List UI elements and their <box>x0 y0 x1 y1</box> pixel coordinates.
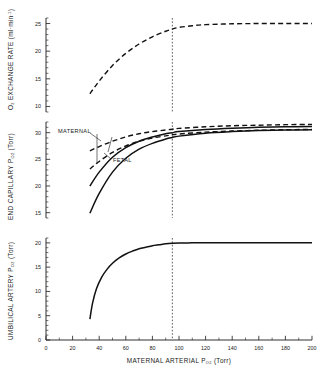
bottom-panel-axes <box>46 238 312 340</box>
y-tick-label: 5 <box>38 313 41 319</box>
x-tick-label: 60 <box>123 345 129 351</box>
x-axis-label: MATERNAL ARTERIAL PO2 (Torr) <box>127 357 232 365</box>
umbilical-artery-po2-panel: 05101520 020406080100120140160180200 UMB… <box>7 238 317 365</box>
y-tick-label: 20 <box>35 240 41 246</box>
o2-exchange-rate-panel: 10152025 O2 EXCHANGE RATE (ml·min-1) <box>7 9 312 112</box>
fetal-curve-lower <box>90 130 312 213</box>
umbilical-artery-po2-curve <box>90 243 312 319</box>
top-panel-y-ticks <box>46 18 50 112</box>
y-tick-label: 10 <box>35 288 41 294</box>
y-tick-label: 15 <box>35 210 41 216</box>
x-tick-label: 200 <box>308 345 317 351</box>
maternal-label: MATERNAL <box>58 128 91 134</box>
middle-panel-y-axis-label: END CAPILLARY PO2 (Torr) <box>7 133 15 220</box>
bottom-panel-y-ticklabels: 05101520 <box>35 240 41 343</box>
o2-exchange-rate-curve <box>90 24 312 94</box>
figure-root: 10152025 O2 EXCHANGE RATE (ml·min-1) 152… <box>0 0 325 374</box>
top-panel-y-axis-label: O2 EXCHANGE RATE (ml·min-1) <box>7 9 16 110</box>
x-tick-label: 140 <box>228 345 237 351</box>
bottom-panel-y-ticks <box>46 238 50 340</box>
y-tick-label: 25 <box>35 156 41 162</box>
maternal-leader-lines <box>90 133 101 164</box>
fetal-label: FETAL <box>113 157 132 163</box>
maternal-curve-upper <box>90 124 312 150</box>
y-tick-label: 0 <box>38 337 41 343</box>
y-tick-label: 30 <box>35 130 41 136</box>
x-tick-label: 80 <box>149 345 155 351</box>
y-tick-label: 20 <box>35 183 41 189</box>
x-tick-label: 120 <box>201 345 210 351</box>
chart-svg: 10152025 O2 EXCHANGE RATE (ml·min-1) 152… <box>0 0 325 374</box>
x-tick-label: 40 <box>96 345 102 351</box>
x-tick-label: 160 <box>254 345 263 351</box>
y-tick-label: 20 <box>35 48 41 54</box>
x-axis-ticklabels: 020406080100120140160180200 <box>45 345 317 351</box>
x-tick-label: 20 <box>70 345 76 351</box>
x-axis-ticks <box>46 336 312 340</box>
bottom-panel-y-axis-label: UMBILICAL ARTERY PO2 (Torr) <box>7 242 15 340</box>
top-panel-y-ticklabels: 10152025 <box>35 21 41 110</box>
fetal-leader-lines <box>104 137 112 159</box>
y-tick-label: 15 <box>35 264 41 270</box>
end-capillary-po2-panel: 15202530 END CAPILLARY PO2 (Torr) MATERN… <box>7 122 312 220</box>
x-tick-label: 100 <box>175 345 184 351</box>
middle-panel-y-ticklabels: 15202530 <box>35 130 41 216</box>
middle-panel-y-ticks <box>46 122 50 218</box>
x-tick-label: 180 <box>281 345 290 351</box>
y-tick-label: 25 <box>35 21 41 27</box>
x-tick-label: 0 <box>45 345 48 351</box>
y-tick-label: 15 <box>35 76 41 82</box>
y-tick-label: 10 <box>35 103 41 109</box>
